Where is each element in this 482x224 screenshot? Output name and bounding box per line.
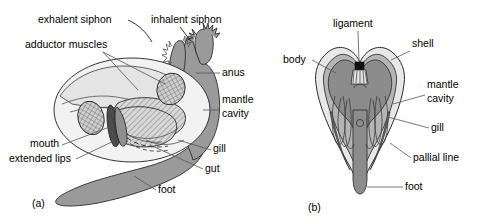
label-pallial-line: pallial line [413,151,459,163]
label-extended-lips: extended lips [9,152,71,164]
label-mantle-cavity-b-line2: cavity [427,92,455,104]
label-foot-b: foot [405,180,423,192]
label-body: body [283,53,307,65]
label-mouth: mouth [30,137,59,149]
label-inhalent-siphon: inhalent siphon [151,13,222,25]
label-gill-a: gill [213,142,226,154]
label-mantle-cavity-b-line1: mantle [427,78,459,90]
label-shell: shell [412,37,434,49]
foot-shape-b [353,110,367,194]
label-exhalent-siphon: exhalent siphon [38,13,112,25]
label-anus: anus [222,66,245,78]
panel-id-b: (b) [308,201,321,213]
label-foot-a: foot [158,183,176,195]
bivalve-anatomy-figure: exhalent siphon inhalent siphon adductor… [0,0,482,224]
label-mantle-cavity-a-line1: mantle [222,93,254,105]
panel-id-a: (a) [32,197,45,209]
label-adductor-muscles: adductor muscles [25,38,107,50]
label-gill-b: gill [431,121,444,133]
label-gut: gut [205,162,220,174]
panel-b-drawing [312,31,429,194]
label-ligament: ligament [333,17,373,29]
label-mantle-cavity-a-line2: cavity [222,107,250,119]
